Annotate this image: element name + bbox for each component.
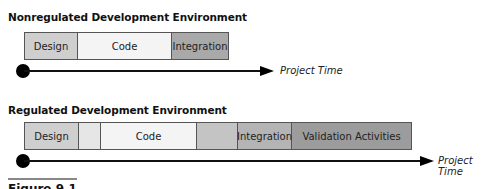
segment-integration: Integration <box>172 33 228 59</box>
caption-rule <box>8 178 77 180</box>
project-time-axis <box>24 70 264 72</box>
arrow-right-icon <box>260 66 274 76</box>
segment-code-extension <box>197 123 238 149</box>
regulated-timeline-bar: Design Code Integration Validation Activ… <box>24 122 412 150</box>
segment-code: Code <box>101 123 197 149</box>
segment-design: Design <box>25 123 79 149</box>
regulated-title: Regulated Development Environment <box>8 104 227 116</box>
segment-design: Design <box>25 33 78 59</box>
axis-label: Project Time <box>280 65 343 76</box>
nonregulated-title: Nonregulated Development Environment <box>8 11 247 23</box>
segment-integration: Integration <box>238 123 292 149</box>
arrow-right-icon <box>420 156 434 166</box>
figure-caption: Figure 9.1 <box>8 183 77 189</box>
project-time-axis <box>24 160 424 162</box>
axis-label: Project Time <box>438 155 494 177</box>
segment-code: Code <box>78 33 172 59</box>
segment-validation-activities: Validation Activities <box>292 123 411 149</box>
nonregulated-timeline-bar: Design Code Integration <box>24 32 229 60</box>
segment-design-extension <box>79 123 101 149</box>
